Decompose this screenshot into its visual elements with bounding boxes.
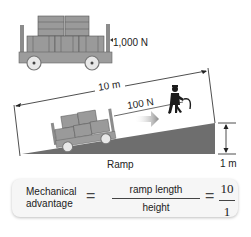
mechanical-advantage-diagram: 1,000 N 10 m 100 N Ramp 1 m Mechanical a… (0, 0, 251, 237)
lhs-line-1: Mechanical (26, 186, 77, 198)
equals-sign-1: = (86, 187, 95, 205)
height-label: 1 m (220, 158, 237, 169)
person-pulling-icon (168, 85, 190, 114)
result-numerator: 10 (219, 181, 235, 201)
lhs-line-2: advantage (26, 198, 77, 210)
numerator: ramp length (112, 184, 200, 199)
ramp-label: Ramp (107, 159, 134, 170)
top-cart-icon (19, 16, 113, 70)
ramp-shape (22, 123, 215, 154)
formula-box: Mechanical advantage = ramp length heigh… (12, 179, 238, 217)
result-denominator: 1 (219, 201, 235, 220)
weight-label: 1,000 N (113, 37, 148, 48)
equals-sign-2: = (205, 187, 214, 205)
motion-arrow-icon (134, 111, 159, 127)
denominator: height (112, 199, 200, 213)
fraction-result: 10 1 (219, 181, 235, 220)
formula-lhs: Mechanical advantage (26, 186, 77, 210)
fraction-ramp-over-height: ramp length height (112, 184, 200, 213)
